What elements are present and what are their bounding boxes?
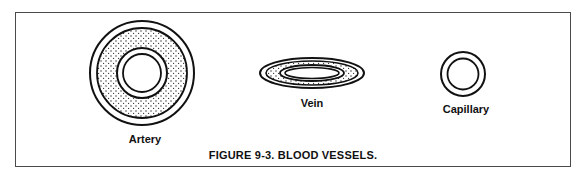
figure-caption: FIGURE 9-3. BLOOD VESSELS. <box>209 149 377 161</box>
capillary-cross-section <box>441 52 485 96</box>
vein-label: Vein <box>301 97 324 109</box>
artery-label: Artery <box>129 133 161 145</box>
vein-cross-section <box>260 58 364 88</box>
artery-cross-section <box>90 21 194 125</box>
capillary-label: Capillary <box>443 103 489 115</box>
